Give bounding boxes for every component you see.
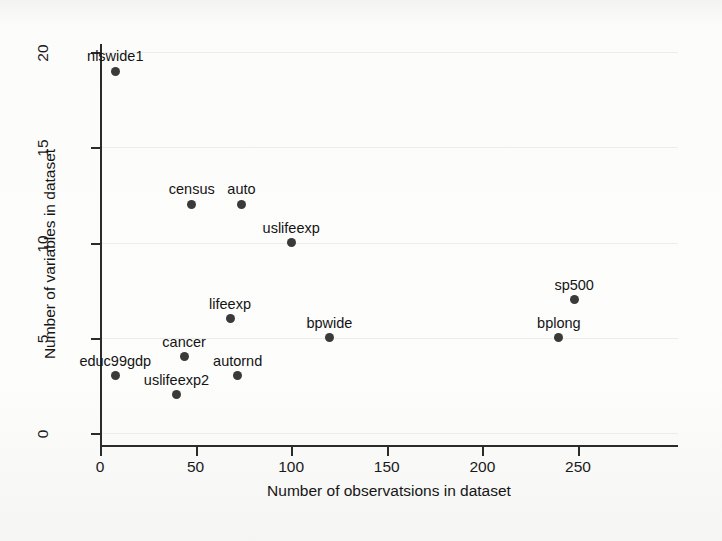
data-point[interactable] bbox=[570, 295, 579, 304]
data-point-label: uslifeexp bbox=[263, 220, 320, 236]
x-tick-label: 200 bbox=[452, 458, 512, 476]
x-axis-line bbox=[100, 445, 678, 447]
gridline bbox=[102, 243, 678, 244]
x-axis-title: Number of observatsions in dataset bbox=[100, 482, 678, 500]
data-point[interactable] bbox=[172, 390, 181, 399]
x-tick-label: 0 bbox=[70, 458, 130, 476]
y-axis-title: Number of variables in dataset bbox=[41, 54, 59, 454]
y-axis-line bbox=[100, 44, 102, 446]
data-point[interactable] bbox=[226, 314, 235, 323]
data-point-label: bplong bbox=[537, 315, 581, 331]
x-tick-label: 250 bbox=[548, 458, 608, 476]
x-tick-label: 150 bbox=[357, 458, 417, 476]
gridline bbox=[102, 147, 678, 148]
data-point[interactable] bbox=[237, 200, 246, 209]
data-point-label: uslifeexp2 bbox=[144, 372, 209, 388]
y-tick-mark bbox=[91, 243, 100, 245]
x-tick-mark bbox=[291, 447, 293, 456]
data-point-label: census bbox=[169, 181, 215, 197]
data-point[interactable] bbox=[325, 333, 334, 342]
data-point-label: auto bbox=[227, 181, 255, 197]
data-point[interactable] bbox=[180, 352, 189, 361]
x-tick-label: 100 bbox=[261, 458, 321, 476]
data-point-label: nlswide1 bbox=[87, 48, 143, 64]
scanned-page: 05101520 050100150200250 nlswide1censusa… bbox=[0, 0, 722, 541]
data-point-label: autornd bbox=[213, 353, 262, 369]
data-point[interactable] bbox=[111, 67, 120, 76]
y-tick-mark bbox=[91, 338, 100, 340]
data-point[interactable] bbox=[187, 200, 196, 209]
data-point[interactable] bbox=[111, 371, 120, 380]
x-tick-mark bbox=[196, 447, 198, 456]
x-tick-label: 50 bbox=[166, 458, 226, 476]
data-point[interactable] bbox=[233, 371, 242, 380]
y-tick-mark bbox=[91, 433, 100, 435]
gridline bbox=[102, 433, 678, 434]
data-point-label: educ99gdp bbox=[79, 353, 151, 369]
data-point-label: cancer bbox=[162, 334, 206, 350]
data-point[interactable] bbox=[287, 238, 296, 247]
data-point-label: sp500 bbox=[554, 277, 594, 293]
y-tick-mark bbox=[91, 147, 100, 149]
data-point-label: lifeexp bbox=[209, 296, 251, 312]
x-tick-mark bbox=[100, 447, 102, 456]
x-tick-mark bbox=[482, 447, 484, 456]
gridline bbox=[102, 52, 678, 53]
data-point-label: bpwide bbox=[306, 315, 352, 331]
scatter-plot: 05101520 050100150200250 nlswide1censusa… bbox=[0, 0, 722, 541]
x-tick-mark bbox=[387, 447, 389, 456]
x-tick-mark bbox=[578, 447, 580, 456]
data-point[interactable] bbox=[554, 333, 563, 342]
